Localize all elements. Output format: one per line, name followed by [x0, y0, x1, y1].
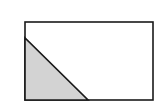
- geometry-diagram: [0, 0, 156, 112]
